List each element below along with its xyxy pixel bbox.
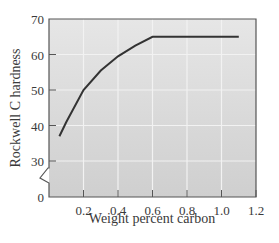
svg-text:1.0: 1.0 [213,203,229,218]
svg-text:70: 70 [31,12,44,27]
svg-text:60: 60 [31,48,44,63]
y-axis-title: Rockwell C hardness [8,49,23,168]
chart: 0.20.40.60.81.01.2 03040506070 Weight pe… [0,0,279,243]
svg-text:40: 40 [31,119,44,134]
svg-text:0: 0 [38,190,45,205]
svg-text:50: 50 [31,83,44,98]
svg-text:30: 30 [31,154,44,169]
svg-text:1.2: 1.2 [248,203,264,218]
x-axis-title: Weight percent carbon [89,211,215,226]
